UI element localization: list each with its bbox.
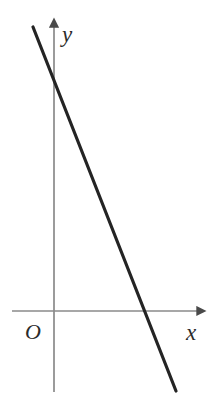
figure-canvas: y x O bbox=[0, 0, 213, 405]
origin-label: O bbox=[25, 319, 41, 344]
linear-function-graph: y x O bbox=[0, 0, 213, 405]
x-axis-label: x bbox=[185, 320, 197, 345]
y-axis-label: y bbox=[60, 22, 73, 47]
